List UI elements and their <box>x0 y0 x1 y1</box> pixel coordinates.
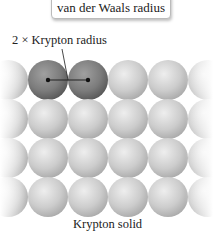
atom-rows <box>0 60 213 217</box>
atom-center-dot <box>46 78 50 82</box>
atom-center-dot <box>86 78 90 82</box>
krypton-solid-diagram: van der Waals radius 2 × Krypton radius <box>0 0 213 234</box>
atom-lattice <box>0 0 213 234</box>
figure-caption: Krypton solid <box>73 217 142 232</box>
